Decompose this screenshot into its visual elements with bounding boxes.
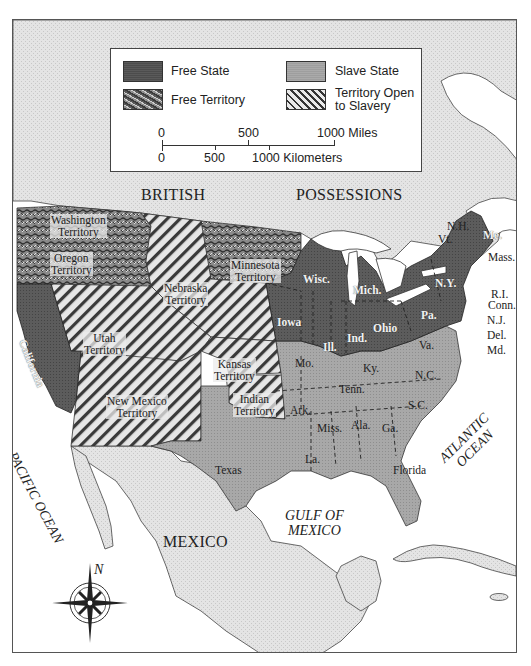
label-la: La.: [305, 454, 320, 466]
label-ny: N.Y.: [435, 278, 456, 290]
swatch-slave-state: [286, 61, 326, 82]
label-pa: Pa.: [421, 310, 437, 322]
label-ohio: Ohio: [373, 323, 397, 335]
scale-tick-0: [162, 140, 163, 151]
scale-tick-mi-500: [248, 140, 249, 145]
label-md: Md.: [487, 345, 506, 357]
legend-territory-open-to-slavery: Territory Open to Slavery: [335, 87, 414, 113]
scale-mi-500: 500: [238, 127, 259, 140]
label-kansas-territory: Kansas Territory: [213, 358, 256, 382]
label-british: BRITISH: [141, 187, 205, 203]
label-nj: N.J.: [487, 315, 506, 327]
label-mo: Mo.: [295, 358, 314, 370]
label-minnesota-territory: Minnesota Territory: [230, 259, 281, 283]
label-wisc: Wisc.: [303, 274, 330, 286]
utah-line-2: Territory: [84, 344, 125, 356]
scale-km-0: 0: [158, 152, 165, 165]
label-ill: Ill.: [323, 342, 337, 354]
label-conn: Conn.: [488, 300, 516, 312]
kansas-line-1: Kansas: [214, 358, 255, 370]
label-me: Me.: [483, 230, 502, 242]
label-vt: Vt.: [438, 234, 452, 246]
label-washington-territory: Washington Territory: [50, 214, 107, 238]
legend-open-line-2: to Slavery: [335, 100, 414, 113]
scale-mi-0: 0: [158, 127, 165, 140]
indian-line-2: Territory: [234, 405, 275, 417]
label-iowa: Iowa: [277, 317, 301, 329]
oregon-line-2: Territory: [51, 264, 92, 276]
utah-line-1: Utah: [84, 332, 125, 344]
minnesota-line-2: Territory: [231, 271, 280, 283]
kansas-line-2: Territory: [214, 370, 255, 382]
oregon-line-1: Oregon: [51, 252, 92, 264]
label-nc: N.C.: [415, 370, 437, 382]
label-ark: Ark.: [290, 405, 311, 417]
label-gulf-of-mexico: GULF OF MEXICO: [285, 508, 344, 539]
label-ky: Ky.: [363, 363, 379, 375]
washington-line-2: Territory: [51, 226, 106, 238]
scale-bar: [162, 145, 335, 146]
label-ind: Ind.: [347, 333, 367, 345]
label-del: Del.: [487, 330, 506, 342]
label-indian-territory: Indian Territory: [233, 393, 276, 417]
label-florida: Florida: [393, 465, 426, 477]
label-nebraska-territory: Nebraska Territory: [163, 282, 208, 306]
label-oregon-territory: Oregon Territory: [50, 252, 93, 276]
swatch-free-territory: [123, 89, 163, 110]
label-new-mexico-territory: New Mexico Territory: [106, 395, 168, 419]
label-tenn: Tenn.: [339, 384, 365, 396]
swatch-free-state: [123, 61, 163, 82]
label-miss: Miss.: [317, 423, 342, 435]
compass-rose: [52, 563, 128, 643]
legend-slave-state: Slave State: [335, 65, 399, 78]
scale-km-1000: 1000 Kilometers: [252, 152, 342, 165]
compass-north-label: N: [94, 563, 103, 577]
legend: Free State Slave State Free Territory Te…: [110, 48, 422, 172]
minnesota-line-1: Minnesota: [231, 259, 280, 271]
cuba: [393, 545, 516, 576]
new-mexico-line-1: New Mexico: [107, 395, 167, 407]
legend-free-territory: Free Territory: [171, 94, 245, 107]
new-mexico-line-2: Territory: [107, 407, 167, 419]
washington-line-1: Washington: [51, 214, 106, 226]
label-possessions: POSSESSIONS: [296, 187, 402, 203]
gulf-line-2: MEXICO: [285, 523, 344, 538]
scale-tick-km-1000: [269, 145, 270, 150]
label-mexico: MEXICO: [163, 534, 228, 550]
label-ga: Ga.: [382, 423, 398, 435]
label-mass: Mass.: [488, 252, 515, 264]
legend-free-state: Free State: [171, 65, 229, 78]
nebraska-line-1: Nebraska: [164, 282, 207, 294]
label-mich: Mich.: [353, 285, 381, 297]
swatch-territory-open-to-slavery: [286, 89, 326, 110]
scale-tick-km-500: [215, 145, 216, 150]
label-ala: Ala.: [351, 420, 370, 432]
label-nh: N.H.: [447, 221, 469, 233]
gulf-line-1: GULF OF: [285, 508, 344, 523]
scale-tick-mi-1000: [334, 140, 335, 145]
scale-mi-1000: 1000 Miles: [317, 127, 377, 140]
label-va: Va.: [419, 340, 434, 352]
label-utah-territory: Utah Territory: [83, 332, 126, 356]
indian-line-1: Indian: [234, 393, 275, 405]
label-texas: Texas: [215, 465, 242, 477]
label-sc: S.C.: [408, 400, 428, 412]
nebraska-line-2: Territory: [164, 294, 207, 306]
scale-km-500: 500: [204, 152, 225, 165]
